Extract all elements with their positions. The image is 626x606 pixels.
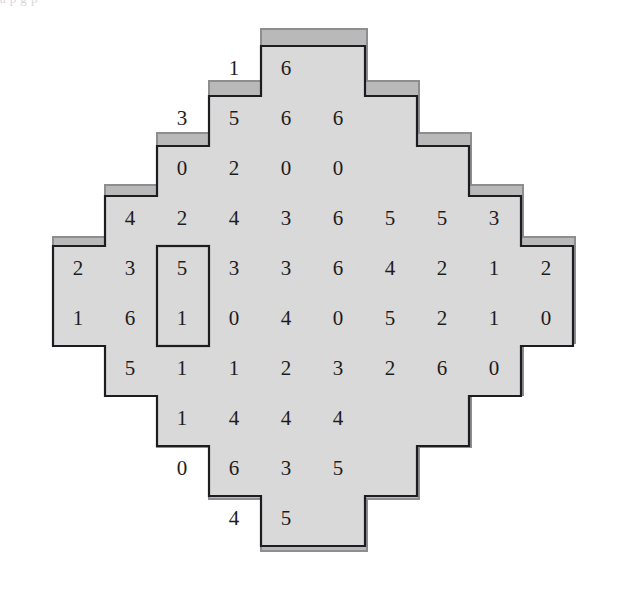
grid-cell-value: 4 [266,408,306,429]
grid-cell-value: 0 [162,458,202,479]
grid-cell-value: 3 [318,358,358,379]
grid-cell-value: 6 [214,458,254,479]
grid-cell-value: 5 [318,458,358,479]
grid-cell-value: 3 [214,258,254,279]
grid-cell-value: 3 [110,258,150,279]
grid-cell-value: 1 [474,308,514,329]
grid-cell-value: 0 [474,358,514,379]
grid-cell-value: 0 [318,308,358,329]
grid-cell-value: 1 [214,58,254,79]
diamond-shape-layer [0,0,626,606]
grid-cell-value: 6 [422,358,462,379]
grid-cell-value: 6 [266,58,306,79]
grid-cell-value: 0 [214,308,254,329]
grid-cell-value: 2 [58,258,98,279]
grid-cell-value: 4 [214,408,254,429]
grid-cell-value: 1 [58,308,98,329]
grid-cell-value: 0 [162,158,202,179]
grid-cell-value: 5 [422,208,462,229]
grid-cell-value: 5 [370,308,410,329]
grid-cell-value: 0 [526,308,566,329]
grid-cell-value: 3 [162,108,202,129]
grid-cell-value: 1 [162,358,202,379]
grid-cell-value: 3 [266,208,306,229]
grid-cell-value: 5 [370,208,410,229]
grid-cell-value: 2 [422,258,462,279]
grid-cell-value: 3 [474,208,514,229]
grid-cell-value: 4 [266,308,306,329]
grid-cell-value: 2 [214,158,254,179]
grid-cell-value: 1 [162,308,202,329]
grid-cell-value: 1 [214,358,254,379]
grid-cell-value: 2 [370,358,410,379]
grid-cell-value: 5 [110,358,150,379]
grid-cell-value: 0 [266,158,306,179]
grid-cell-value: 1 [474,258,514,279]
grid-cell-value: 5 [162,258,202,279]
grid-cell-value: 4 [318,408,358,429]
grid-cell-value: 2 [162,208,202,229]
grid-cell-value: 6 [318,108,358,129]
grid-cell-value: 2 [422,308,462,329]
cell-region-shape [53,46,573,546]
grid-cell-value: 6 [110,308,150,329]
grid-cell-value: 5 [214,108,254,129]
grid-cell-value: 4 [214,208,254,229]
grid-cell-value: 6 [318,258,358,279]
grid-cell-value: 4 [214,508,254,529]
numeric-diamond-figure: a p g p 16356602004243655323533642121610… [0,0,626,606]
grid-cell-value: 4 [370,258,410,279]
grid-cell-value: 6 [266,108,306,129]
grid-cell-value: 4 [110,208,150,229]
grid-cell-value: 3 [266,258,306,279]
grid-cell-value: 2 [526,258,566,279]
grid-cell-value: 0 [318,158,358,179]
grid-cell-value: 6 [318,208,358,229]
grid-cell-value: 5 [266,508,306,529]
grid-cell-value: 3 [266,458,306,479]
grid-cell-value: 1 [162,408,202,429]
grid-cell-value: 2 [266,358,306,379]
